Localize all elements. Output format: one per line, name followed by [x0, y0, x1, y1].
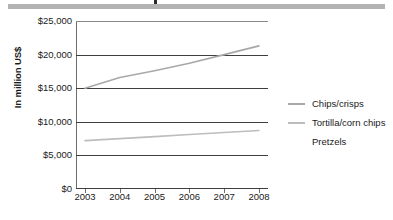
y-tick-label: $0	[16, 184, 72, 194]
legend-item[interactable]: Chips/crisps	[288, 94, 393, 113]
x-tick-label: 2004	[109, 192, 130, 202]
x-axis-tick-labels: 200320042005200620072008	[76, 192, 268, 208]
y-tick-label: $5,000	[16, 150, 72, 160]
y-tick-label: $25,000	[16, 16, 72, 26]
line-chart: In million US$ $25,000$20,000$15,000$10,…	[0, 0, 393, 220]
series-lines	[76, 21, 268, 189]
chart-legend: Chips/crispsTortilla/corn chipsPretzels	[288, 94, 393, 151]
x-tick-label: 2006	[179, 192, 200, 202]
x-tick-label: 2003	[74, 192, 95, 202]
y-tick-label: $20,000	[16, 50, 72, 60]
legend-item[interactable]: Tortilla/corn chips	[288, 113, 393, 132]
legend-swatch-icon	[288, 103, 305, 105]
y-tick-label: $15,000	[16, 83, 72, 93]
y-axis-tick-labels: $25,000$20,000$15,000$10,000$5,000$0	[16, 0, 72, 220]
series-line	[85, 46, 259, 88]
legend-swatch-icon	[288, 141, 305, 143]
x-tick-label: 2007	[214, 192, 235, 202]
x-tick-label: 2005	[144, 192, 165, 202]
series-line	[85, 131, 259, 141]
x-tick-label: 2008	[248, 192, 269, 202]
y-tick-label: $10,000	[16, 117, 72, 127]
legend-item[interactable]: Pretzels	[288, 132, 393, 151]
plot-area	[76, 21, 268, 189]
legend-label: Chips/crisps	[312, 99, 364, 109]
legend-swatch-icon	[288, 122, 305, 124]
legend-label: Tortilla/corn chips	[312, 118, 385, 128]
legend-label: Pretzels	[312, 137, 346, 147]
